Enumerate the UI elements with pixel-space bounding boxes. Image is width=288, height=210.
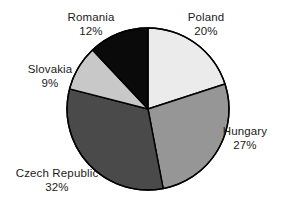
slice-label-romania-value: 12% <box>48 24 134 38</box>
slice-label-poland-value: 20% <box>168 24 244 38</box>
slice-label-czech-republic-value: 32% <box>2 180 112 194</box>
slice-label-slovakia: Slovakia 9% <box>8 62 92 90</box>
slice-label-czech-republic: Czech Republic 32% <box>2 166 112 194</box>
slice-label-poland-name: Poland <box>168 10 244 24</box>
slice-label-romania: Romania 12% <box>48 10 134 38</box>
slice-label-slovakia-value: 9% <box>8 76 92 90</box>
slice-label-poland: Poland 20% <box>168 10 244 38</box>
slice-label-hungary-value: 27% <box>208 138 282 152</box>
slice-label-czech-republic-name: Czech Republic <box>2 166 112 180</box>
slice-label-hungary-name: Hungary <box>208 124 282 138</box>
slice-label-hungary: Hungary 27% <box>208 124 282 152</box>
slice-label-slovakia-name: Slovakia <box>8 62 92 76</box>
slice-label-romania-name: Romania <box>48 10 134 24</box>
pie-chart-figure: Romania 12% Poland 20% Slovakia 9% Hunga… <box>0 0 288 210</box>
